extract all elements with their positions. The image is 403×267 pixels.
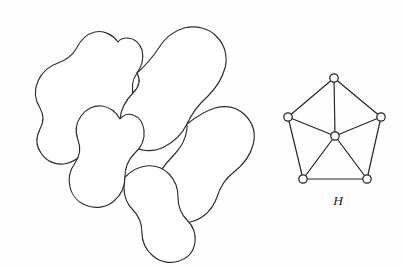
graph-node-v-right [377,113,385,121]
graph-edge-v-center-v-right [335,117,381,136]
figure-canvas: H [0,0,403,267]
planar-region-map [36,27,255,263]
graph-edge-v-center-v-top [334,78,335,136]
graph-node-v-bottom-left [299,175,307,183]
figure-root: H [0,0,403,267]
graph-edge-group [288,78,381,179]
graph-edge-v-top-v-left [288,78,334,117]
graph-edge-v-center-v-bottom-right [335,136,367,179]
graph-edge-v-center-v-bottom-left [303,136,335,179]
graph-node-v-bottom-right [363,175,371,183]
graph-node-v-left [284,113,292,121]
graph-label-h: H [332,193,344,208]
graph-edge-v-left-v-bottom-left [288,117,303,179]
graph-edge-v-right-v-bottom-right [367,117,381,179]
graph-edge-v-center-v-left [288,117,335,136]
graph-node-v-top [330,74,338,82]
graph-node-v-center [331,132,339,140]
graph-h-diagram: H [284,74,385,208]
graph-edge-v-top-v-right [334,78,381,117]
